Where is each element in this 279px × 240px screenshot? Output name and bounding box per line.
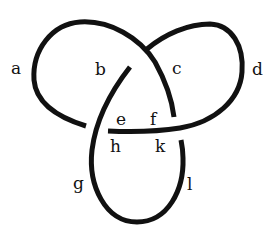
trefoil-knot-diagram xyxy=(0,0,279,240)
label-k: k xyxy=(155,138,165,155)
label-d: d xyxy=(252,61,263,78)
label-h: h xyxy=(110,138,121,155)
label-g: g xyxy=(73,175,84,192)
label-a: a xyxy=(11,60,21,77)
label-e: e xyxy=(116,111,126,128)
label-b: b xyxy=(95,61,106,78)
label-f: f xyxy=(150,111,156,128)
label-c: c xyxy=(172,60,182,77)
label-l: l xyxy=(187,176,192,193)
